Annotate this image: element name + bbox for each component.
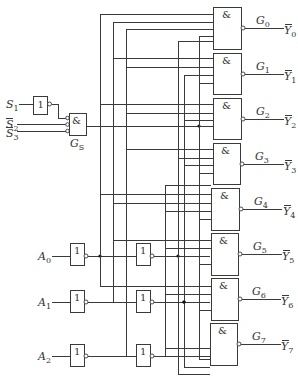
svg-text:1: 1 <box>140 292 146 303</box>
svg-text:&: & <box>218 325 227 336</box>
nand-gates: & & & & & & & & <box>210 7 284 365</box>
svg-text:1: 1 <box>140 346 146 357</box>
svg-text:1: 1 <box>140 245 146 256</box>
g4-label: G4 <box>254 195 268 210</box>
y0-bar-label: Y0 <box>284 24 296 39</box>
g6-label: G6 <box>252 285 266 300</box>
g2-label: G2 <box>256 105 270 120</box>
svg-text:&: & <box>219 235 228 246</box>
y7-bar-label: Y7 <box>281 340 293 355</box>
gs-label: GS <box>70 137 84 152</box>
svg-text:1: 1 <box>74 292 80 303</box>
s1-label: S1 <box>6 98 19 113</box>
svg-text:&: & <box>220 190 229 201</box>
y5-bar-label: Y5 <box>282 250 294 265</box>
svg-text:1: 1 <box>74 245 80 256</box>
y3-bar-label: Y3 <box>284 160 296 175</box>
a2-label: A2 <box>37 350 51 365</box>
g3-label: G3 <box>255 150 269 165</box>
enable-not-symbol: 1 <box>38 99 44 110</box>
y1-bar-label: Y1 <box>284 70 296 85</box>
output-labels: G0 Y0 G1 Y1 G2 Y2 G3 Y3 G4 Y4 G5 Y5 G6 Y… <box>252 14 296 355</box>
decoder-circuit-diagram: 1 & S1 S2 S3 GS 1 1 <box>0 0 298 378</box>
g5-label: G5 <box>253 240 267 255</box>
y2-bar-label: Y2 <box>284 115 296 130</box>
y4-bar-label: Y4 <box>283 205 295 220</box>
a1-label: A1 <box>37 296 51 311</box>
bus-wires <box>100 14 213 374</box>
svg-text:1: 1 <box>74 346 80 357</box>
g7-label: G7 <box>252 330 266 345</box>
inversion-bubble <box>48 102 52 106</box>
svg-text:&: & <box>221 145 230 156</box>
svg-text:&: & <box>219 280 228 291</box>
svg-text:&: & <box>222 9 231 20</box>
svg-text:&: & <box>222 55 231 66</box>
g1-label: G1 <box>256 60 270 75</box>
y6-bar-label: Y6 <box>281 295 293 310</box>
a0-label: A0 <box>37 250 51 265</box>
g0-label: G0 <box>256 14 270 29</box>
enable-and-symbol: & <box>72 115 81 126</box>
svg-text:&: & <box>222 100 231 111</box>
